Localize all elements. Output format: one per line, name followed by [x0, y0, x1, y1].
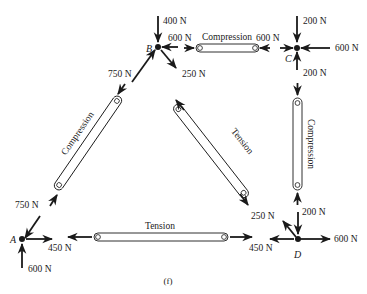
- label-a-reaction-600: 600 N: [28, 264, 52, 274]
- label-d-from-cd: 200 N: [302, 207, 326, 217]
- member-bd-label: Tension: [229, 126, 255, 156]
- label-b-load-400: 400 N: [163, 16, 187, 26]
- member-bc: Compression: [196, 32, 259, 52]
- node-d-label: D: [293, 249, 302, 260]
- arrow-b-from-ab: [132, 50, 155, 82]
- label-bc-at-c: 600 N: [256, 33, 280, 43]
- label-b-from-bd: 250 N: [182, 69, 206, 79]
- member-ad: Tension: [94, 221, 228, 241]
- label-b-from-ab: 750 N: [108, 69, 132, 79]
- node-d-pin: [295, 236, 301, 242]
- node-c-label: C: [285, 53, 292, 64]
- arrow-ab-bottom: [50, 195, 57, 206]
- label-d-from-bd: 250 N: [251, 211, 275, 221]
- member-cd-label: Compression: [306, 119, 316, 169]
- node-b-pin: [155, 44, 161, 50]
- member-bd: Tension: [172, 103, 256, 200]
- label-d-load-600: 600 N: [334, 234, 358, 244]
- node-a-label: A: [9, 234, 17, 245]
- label-a-from-ab: 750 N: [15, 200, 39, 210]
- label-c-from-cd: 200 N: [303, 68, 327, 78]
- member-bc-label: Compression: [202, 32, 252, 42]
- node-c-pin: [294, 45, 300, 51]
- label-c-load-200: 200 N: [303, 16, 327, 26]
- arrow-d-from-bd: [283, 221, 296, 237]
- member-ab: Compression: [53, 94, 124, 191]
- arrow-ab-top: [118, 84, 125, 94]
- arrow-b-from-bd: [161, 50, 176, 68]
- member-cd: Compression: [293, 98, 316, 190]
- figure-caption: (f): [164, 276, 173, 286]
- node-b-label: B: [146, 43, 152, 54]
- label-a-from-ad: 450 N: [48, 243, 72, 253]
- node-a-pin: [19, 236, 25, 242]
- member-ad-label: Tension: [145, 221, 175, 231]
- truss-free-body-diagram: Compression Compression Tension Compress…: [0, 0, 367, 294]
- label-d-from-ad: 450 N: [249, 243, 273, 253]
- label-c-load-600: 600 N: [335, 43, 359, 53]
- label-b-from-bc: 600 N: [168, 33, 192, 43]
- diagram-canvas: Compression Compression Tension Compress…: [0, 0, 367, 294]
- arrow-a-from-ab: [25, 216, 40, 238]
